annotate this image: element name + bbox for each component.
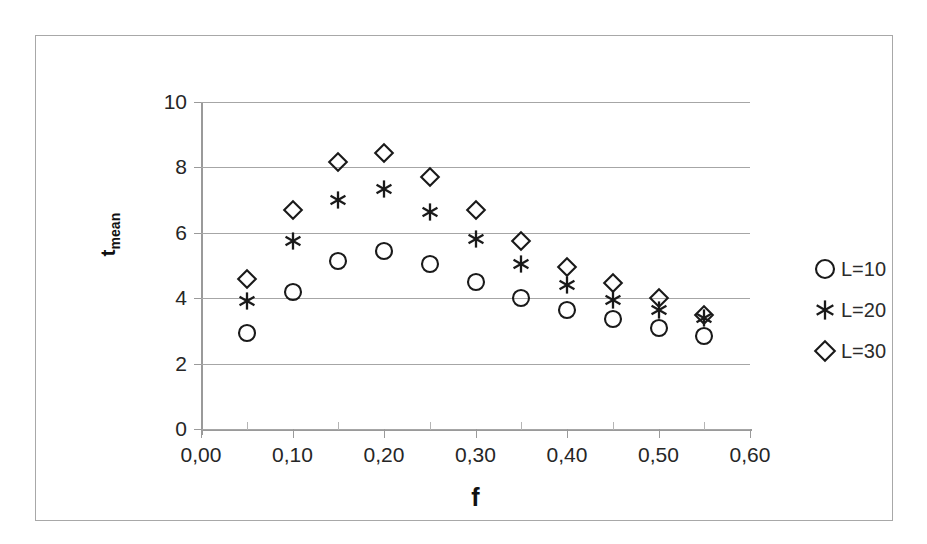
x-axis-title: f — [201, 483, 750, 512]
x-tick-label-0,20: 0,20 — [344, 444, 424, 465]
chart-frame: tmean 1086420 0,000,100,200,300,400,500,… — [35, 35, 893, 521]
y-tick-0 — [194, 429, 201, 430]
y-tick-label-0: 0 — [141, 418, 187, 439]
x-minor-tick — [613, 422, 614, 430]
legend-label: L=10 — [841, 259, 886, 279]
y-axis-title-subscript: mean — [107, 213, 123, 250]
legend-label: L=20 — [841, 300, 886, 320]
x-minor-tick — [521, 422, 522, 430]
x-minor-tick — [247, 422, 248, 430]
y-tick-label-6: 6 — [141, 222, 187, 243]
asterisk-icon — [814, 299, 836, 321]
legend-item-l-10: L=10 — [814, 248, 919, 289]
y-tick-label-2: 2 — [141, 353, 187, 374]
x-tick-label-0,30: 0,30 — [436, 444, 516, 465]
circle-icon — [814, 258, 836, 280]
x-tick-0,60 — [750, 429, 751, 438]
x-tick-0,00 — [201, 429, 202, 438]
plot-area — [201, 102, 750, 429]
x-tick-0,50 — [659, 429, 660, 438]
legend-item-l-30: L=30 — [814, 330, 919, 371]
x-minor-tick — [430, 422, 431, 430]
diamond-icon — [814, 340, 836, 362]
x-minor-tick — [338, 422, 339, 430]
x-tick-label-0,60: 0,60 — [710, 444, 790, 465]
y-tick-8 — [194, 167, 201, 168]
y-axis-title-base: t — [96, 249, 119, 256]
x-tick-0,30 — [476, 429, 477, 438]
x-tick-0,10 — [293, 429, 294, 438]
x-tick-label-0,00: 0,00 — [161, 444, 241, 465]
x-tick-label-0,40: 0,40 — [527, 444, 607, 465]
x-tick-0,40 — [567, 429, 568, 438]
y-tick-label-4: 4 — [141, 287, 187, 308]
chart-screenshot: tmean 1086420 0,000,100,200,300,400,500,… — [0, 0, 927, 544]
x-tick-0,20 — [384, 429, 385, 438]
x-minor-tick — [704, 422, 705, 430]
y-tick-2 — [194, 364, 201, 365]
x-tick-label-0,10: 0,10 — [253, 444, 333, 465]
y-tick-6 — [194, 233, 201, 234]
chart-legend: L=10L=20L=30 — [814, 248, 919, 371]
x-tick-label-0,50: 0,50 — [619, 444, 699, 465]
y-tick-10 — [194, 102, 201, 103]
y-tick-label-10: 10 — [141, 91, 187, 112]
legend-label: L=30 — [841, 341, 886, 361]
y-tick-label-8: 8 — [141, 156, 187, 177]
y-tick-4 — [194, 298, 201, 299]
legend-item-l-20: L=20 — [814, 289, 919, 330]
y-axis-title: tmean — [96, 213, 123, 257]
